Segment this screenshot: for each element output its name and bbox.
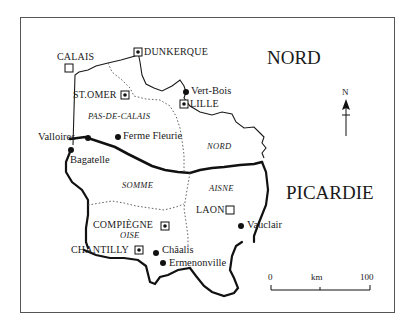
site-label-valloires: Valloires <box>38 132 75 143</box>
vauclair-dot <box>238 223 244 229</box>
calais-symbol <box>65 64 73 72</box>
city-label-dunkerque: DUNKERQUE <box>144 47 208 57</box>
ferme-fleurie-dot <box>115 134 121 140</box>
dept-label-nord: NORD <box>207 142 231 151</box>
dept-label-oise: OISE <box>120 231 140 240</box>
site-label-chaalis: Châalis <box>162 245 194 256</box>
city-label-lille: LILLE <box>190 99 219 109</box>
site-label-vauclair: Vauclair <box>247 220 282 231</box>
scale-bar <box>271 285 370 290</box>
site-label-vert-bois: Vert-Bois <box>191 86 231 97</box>
chaalis-dot <box>153 250 159 256</box>
scale-end-label: 100 <box>360 273 374 282</box>
north-arrow-label: N <box>342 88 349 97</box>
valloires-dot <box>85 135 91 141</box>
dept-label-somme: SOMME <box>122 181 153 190</box>
scale-start-label: 0 <box>268 273 273 282</box>
bagatelle-dot <box>68 147 74 153</box>
city-label-st-omer: ST.OMER <box>73 90 117 100</box>
scale-unit-label: km <box>311 273 323 282</box>
city-label-calais: CALAIS <box>57 52 94 62</box>
city-label-laon: LAON <box>196 205 225 215</box>
site-label-ermenonville: Ermenonville <box>169 258 226 269</box>
picardie-west-border <box>66 152 88 248</box>
ermenonville-dot <box>160 260 166 266</box>
dept-label-aisne: AISNE <box>209 184 234 193</box>
city-label-chantilly: CHANTILLY <box>71 245 129 255</box>
site-label-ferme-fleurie: Ferme Fleurie <box>123 131 182 142</box>
dept-label-pas-de-calais: PAS-DE-CALAIS <box>88 112 150 121</box>
laon-symbol <box>226 206 234 214</box>
vert-bois-dot <box>183 89 189 95</box>
region-label-nord: NORD <box>267 48 321 67</box>
dept-border-somme-oise <box>88 201 184 210</box>
city-label-compiegne: COMPIÈGNE <box>93 220 153 230</box>
region-label-picardie: PICARDIE <box>286 183 374 202</box>
site-label-bagatelle: Bagatelle <box>70 155 110 166</box>
dept-border-somme-aisne <box>184 173 190 248</box>
